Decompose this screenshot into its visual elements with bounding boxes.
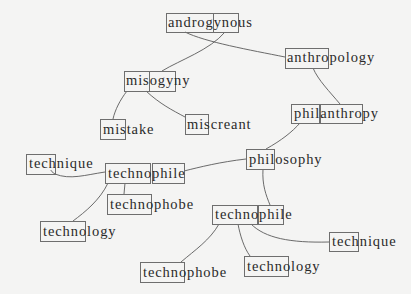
edge-misogyny-to-miscreant [146, 91, 185, 117]
morpheme-tree-diagram: androgynousanthropologymisogynyphilanthr… [0, 0, 411, 294]
edge-technophile-mid-to-technophobe-mid [124, 183, 125, 194]
word-label: technophile [108, 165, 186, 181]
word-label: technology [247, 258, 320, 274]
edge-philosophy-to-technophile-mid [184, 159, 246, 171]
word-node-anthropology: anthropology [286, 49, 376, 69]
word-label: misogyny [126, 72, 190, 88]
word-node-androgynous: androgynous [167, 14, 253, 33]
edge-androgynous-to-anthropology [185, 32, 285, 57]
word-node-miscreant: miscreant [186, 115, 252, 135]
word-node-mistake: mistake [101, 120, 155, 140]
word-label: androgynous [168, 14, 253, 30]
word-label: miscreant [187, 116, 251, 132]
word-label: technophobe [143, 264, 227, 280]
word-label: technique [29, 155, 93, 171]
word-label: anthropology [287, 49, 375, 65]
word-node-technophobe-bottom: technophobe [141, 263, 228, 283]
word-label: technophobe [110, 196, 194, 212]
edge-androgynous-to-misogyny [162, 32, 225, 71]
word-node-technology-left: technology [41, 222, 117, 242]
edge-misogyny-to-mistake [113, 91, 127, 119]
edge-anthropology-to-philanthropy [313, 68, 340, 104]
edge-technophile-mid-to-technology-left [73, 183, 108, 221]
edge-technophile-low-to-technique-right [251, 224, 329, 242]
word-node-technique-right: technique [330, 233, 397, 252]
word-label: technique [332, 233, 396, 249]
word-node-technophile-mid: technophile [106, 164, 186, 184]
edge-technophile-low-to-technology-bottom [238, 224, 250, 256]
diagram-canvas: androgynousanthropologymisogynyphilanthr… [0, 0, 411, 294]
word-label: technology [43, 223, 116, 239]
word-node-philanthropy: philanthropy [292, 105, 379, 124]
word-label: technophile [215, 206, 293, 222]
word-label: philanthropy [294, 105, 379, 121]
word-label: mistake [103, 121, 154, 137]
word-node-technology-bottom: technology [245, 257, 321, 277]
word-node-misogyny: misogyny [125, 72, 191, 92]
word-node-technophobe-mid: technophobe [108, 195, 195, 215]
word-node-technique-left: technique [27, 155, 94, 175]
word-label: philosophy [249, 151, 322, 167]
word-node-philosophy: philosophy [247, 150, 323, 170]
word-node-technophile-low: technophile [213, 206, 293, 225]
edge-philanthropy-to-philosophy [266, 123, 300, 149]
nodes-layer: androgynousanthropologymisogynyphilanthr… [27, 14, 397, 283]
edge-technophile-low-to-technophobe-bottom [181, 224, 219, 262]
edge-technophile-mid-to-technique-left [51, 170, 105, 177]
edge-philosophy-to-technophile-low [263, 169, 270, 205]
